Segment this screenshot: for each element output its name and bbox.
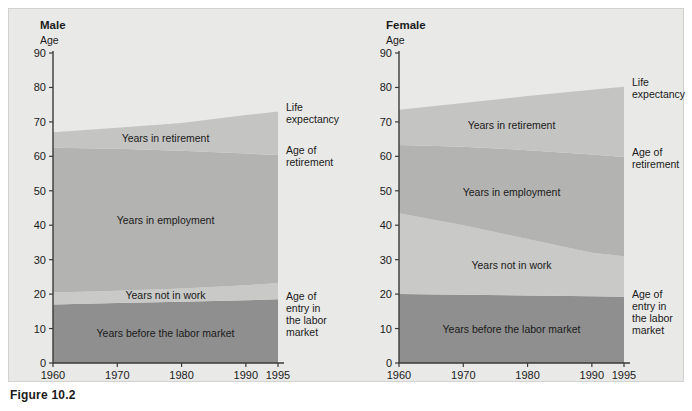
side-label-age-of-entry-in-the-labor-market-male: Age ofentry inthe labormarket [286, 290, 327, 338]
x-tick-label-male-1995: 1995 [266, 369, 290, 381]
y-tick-label-female-60: 60 [380, 150, 392, 162]
band-label-years-in-retirement-female: Years in retirement [468, 119, 556, 131]
band-label-years-not-in-work-female: Years not in work [471, 259, 552, 271]
band-label-years-in-employment-male: Years in employment [117, 214, 215, 226]
side-label-age-of-retirement-male: Age ofretirement [286, 144, 333, 168]
y-tick-label-female-70: 70 [380, 116, 392, 128]
y-tick-label-male-10: 10 [34, 323, 46, 335]
y-tick-label-female-80: 80 [380, 81, 392, 93]
chart-svg: 010203040506070809019601970198019901995M… [0, 0, 692, 411]
band-label-years-before-the-labor-market-male: Years before the labor market [97, 327, 235, 339]
y-tick-label-female-30: 30 [380, 254, 392, 266]
axis-title-female: Age [386, 34, 405, 46]
band-label-years-in-retirement-male: Years in retirement [122, 132, 210, 144]
x-tick-label-male-1980: 1980 [169, 369, 193, 381]
y-tick-label-male-20: 20 [34, 288, 46, 300]
y-tick-label-female-10: 10 [380, 323, 392, 335]
band-label-years-not-in-work-male: Years not in work [125, 289, 206, 301]
y-tick-label-male-70: 70 [34, 116, 46, 128]
side-label-age-of-entry-in-the-labor-market-female: Age ofentry inthe labormarket [632, 288, 673, 336]
y-tick-label-male-80: 80 [34, 81, 46, 93]
y-tick-label-male-30: 30 [34, 254, 46, 266]
y-tick-label-male-90: 90 [34, 47, 46, 59]
side-label-life-expectancy-male: Lifeexpectancy [286, 101, 340, 125]
x-tick-label-male-1960: 1960 [41, 369, 65, 381]
x-tick-label-female-1995: 1995 [612, 369, 636, 381]
figure-container: 010203040506070809019601970198019901995M… [0, 0, 692, 411]
chart-panel-female: 010203040506070809019601970198019901995F… [380, 19, 686, 381]
y-tick-label-female-90: 90 [380, 47, 392, 59]
axis-title-male: Age [40, 34, 59, 46]
y-tick-label-male-50: 50 [34, 185, 46, 197]
y-tick-label-female-0: 0 [386, 357, 392, 369]
x-tick-label-female-1990: 1990 [580, 369, 604, 381]
x-tick-label-female-1970: 1970 [451, 369, 475, 381]
band-label-years-in-employment-female: Years in employment [463, 186, 561, 198]
x-tick-label-male-1970: 1970 [105, 369, 129, 381]
y-tick-label-female-50: 50 [380, 185, 392, 197]
side-label-life-expectancy-female: Lifeexpectancy [632, 76, 686, 100]
y-tick-label-female-20: 20 [380, 288, 392, 300]
panel-title-female: Female [386, 19, 426, 31]
figure-caption: Figure 10.2 [10, 388, 76, 402]
y-tick-label-male-60: 60 [34, 150, 46, 162]
x-tick-label-male-1990: 1990 [234, 369, 258, 381]
y-tick-label-female-40: 40 [380, 219, 392, 231]
y-tick-label-male-40: 40 [34, 219, 46, 231]
y-tick-label-male-0: 0 [40, 357, 46, 369]
x-tick-label-female-1960: 1960 [387, 369, 411, 381]
panel-title-male: Male [40, 19, 66, 31]
chart-panel-male: 010203040506070809019601970198019901995M… [34, 19, 340, 381]
band-label-years-before-the-labor-market-female: Years before the labor market [443, 323, 581, 335]
x-tick-label-female-1980: 1980 [515, 369, 539, 381]
side-label-age-of-retirement-female: Age ofretirement [632, 146, 679, 170]
